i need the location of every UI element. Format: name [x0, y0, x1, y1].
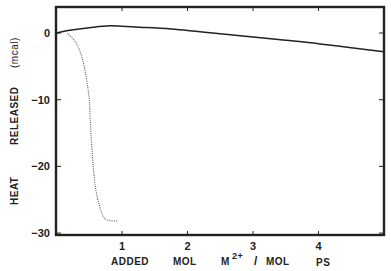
x-label-slash: / [254, 254, 258, 268]
y-label-unit: (mcal) [9, 37, 20, 68]
x-label-mol: MOL [173, 256, 197, 267]
x-tick-label: 1 [119, 240, 125, 252]
x-label-superscript: 2+ [232, 251, 243, 261]
y-label-heat: HEAT [9, 177, 20, 205]
x-label-m: M [221, 256, 230, 267]
y-tick-label: −20 [31, 160, 50, 172]
chart: 1234 0−10−20−30 HEAT RELEASED (mcal) ADD… [0, 0, 391, 271]
y-tick-label: −30 [31, 227, 50, 239]
x-label-added: ADDED [111, 256, 149, 267]
y-label-released: RELEASED [9, 87, 20, 145]
x-label-ps: PS [316, 257, 330, 268]
y-tick-label: −10 [31, 94, 50, 106]
x-tick-label: 4 [315, 240, 322, 252]
x-tick-label: 2 [184, 240, 190, 252]
y-axis-label: HEAT RELEASED (mcal) [9, 37, 20, 205]
x-label-mol2: MOL [266, 256, 290, 267]
y-tick-label: 0 [44, 27, 50, 39]
x-tick-label: 3 [250, 240, 256, 252]
